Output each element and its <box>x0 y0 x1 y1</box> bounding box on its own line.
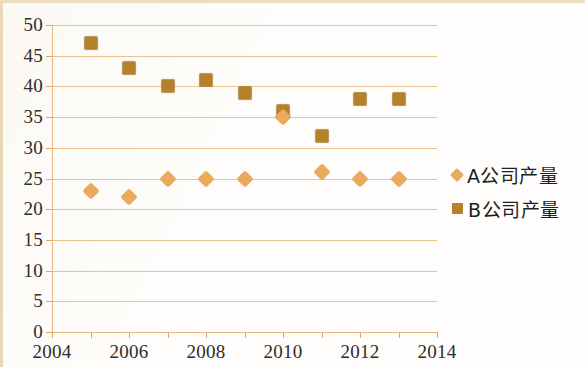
data-point-square-2013 <box>392 92 405 105</box>
legend-item-a[interactable]: A公司产量 <box>452 161 560 188</box>
data-point-square-2005 <box>84 37 97 50</box>
legend-item-b[interactable]: B公司产量 <box>452 195 560 222</box>
gridline-y-45 <box>52 56 437 57</box>
y-axis-label-50: 50 <box>24 14 43 36</box>
x-tick-2006 <box>129 332 130 338</box>
y-axis-label-5: 5 <box>33 290 43 312</box>
gridline-y-15 <box>52 240 437 241</box>
y-tick-35 <box>46 117 52 118</box>
x-tick-2011 <box>322 332 323 338</box>
y-axis-label-35: 35 <box>24 106 43 128</box>
y-tick-40 <box>46 86 52 87</box>
x-tick-2014 <box>437 332 438 338</box>
gridline-y-20 <box>52 209 437 210</box>
data-point-diamond-2008 <box>198 170 215 187</box>
x-axis-label-2012: 2012 <box>341 341 380 363</box>
y-tick-30 <box>46 148 52 149</box>
y-axis-label-10: 10 <box>24 260 43 282</box>
y-tick-10 <box>46 271 52 272</box>
data-point-diamond-2009 <box>236 170 253 187</box>
data-point-square-2008 <box>200 74 213 87</box>
y-tick-20 <box>46 209 52 210</box>
y-axis-label-20: 20 <box>24 198 43 220</box>
y-tick-15 <box>46 240 52 241</box>
data-point-diamond-2013 <box>390 170 407 187</box>
x-axis-label-2010: 2010 <box>264 341 303 363</box>
x-tick-2007 <box>168 332 169 338</box>
legend-item-label: B公司产量 <box>468 195 560 222</box>
y-axis-label-40: 40 <box>24 75 43 97</box>
x-tick-2013 <box>399 332 400 338</box>
data-point-square-2011 <box>315 129 328 142</box>
x-axis-label-2004: 2004 <box>33 341 72 363</box>
chart-legend: A公司产量B公司产量 <box>452 161 560 222</box>
data-point-diamond-2005 <box>82 182 99 199</box>
x-tick-2010 <box>283 332 284 338</box>
data-point-diamond-2007 <box>159 170 176 187</box>
y-tick-45 <box>46 56 52 57</box>
data-point-diamond-2012 <box>352 170 369 187</box>
plot-area: 0510152025303540455020042006200820102012… <box>52 25 437 332</box>
data-point-square-2007 <box>161 80 174 93</box>
y-axis-label-45: 45 <box>24 45 43 67</box>
y-tick-25 <box>46 179 52 180</box>
y-axis-label-30: 30 <box>24 137 43 159</box>
data-point-square-2009 <box>238 86 251 99</box>
x-tick-2005 <box>91 332 92 338</box>
gridline-y-35 <box>52 117 437 118</box>
legend-square-icon <box>452 203 463 214</box>
y-tick-5 <box>46 301 52 302</box>
scatter-chart: 0510152025303540455020042006200820102012… <box>0 0 585 367</box>
gridline-y-30 <box>52 148 437 149</box>
data-point-diamond-2006 <box>121 188 138 205</box>
x-axis-label-2014: 2014 <box>418 341 457 363</box>
y-axis-label-25: 25 <box>24 168 43 190</box>
legend-item-label: A公司产量 <box>467 161 559 188</box>
x-axis-label-2008: 2008 <box>187 341 226 363</box>
gridline-y-50 <box>52 25 437 26</box>
legend-diamond-icon <box>450 167 464 181</box>
gridline-y-10 <box>52 271 437 272</box>
x-tick-2009 <box>245 332 246 338</box>
y-axis-label-0: 0 <box>33 321 43 343</box>
y-tick-50 <box>46 25 52 26</box>
data-point-square-2006 <box>123 61 136 74</box>
y-axis-label-15: 15 <box>24 229 43 251</box>
gridline-y-5 <box>52 301 437 302</box>
x-axis-label-2006: 2006 <box>110 341 149 363</box>
x-tick-2008 <box>206 332 207 338</box>
data-point-square-2012 <box>354 92 367 105</box>
x-tick-2012 <box>360 332 361 338</box>
x-tick-2004 <box>52 332 53 338</box>
